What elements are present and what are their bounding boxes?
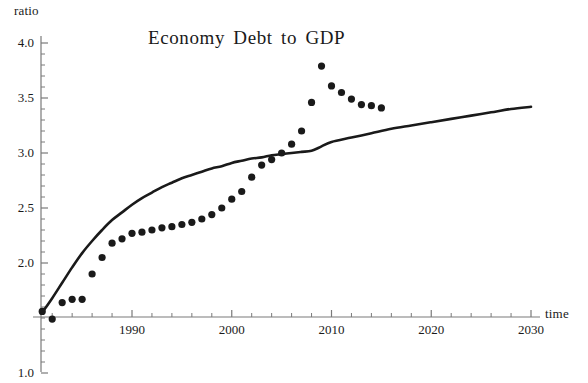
data-point [208,211,215,218]
data-point [338,89,345,96]
data-point [198,215,205,222]
data-point [378,104,385,111]
x-axis-ticks [52,310,531,317]
x-tick-label: 2010 [307,322,357,338]
chart-figure: ratio Economy Debt to GDP time 4.03.53.0… [0,0,588,383]
observed-data-series [39,63,385,323]
data-point [278,149,285,156]
data-point [59,299,66,306]
data-point [69,296,76,303]
data-point [228,196,235,203]
x-tick-label: 2020 [406,322,456,338]
data-point [268,156,275,163]
y-tick-label: 1.0 [0,365,34,381]
data-point [248,174,255,181]
data-point [358,101,365,108]
x-tick-label: 1990 [107,322,157,338]
data-point [288,141,295,148]
plot-area [0,0,588,383]
y-axis-ticks [41,43,48,373]
data-point [238,188,245,195]
data-point [308,99,315,106]
data-point [178,221,185,228]
data-point [328,82,335,89]
data-point [368,102,375,109]
x-tick-label: 2000 [207,322,257,338]
data-point [49,316,56,323]
y-tick-label: 3.0 [0,145,34,161]
data-point [348,96,355,103]
y-tick-label: 2.0 [0,255,34,271]
data-point [298,127,305,134]
y-tick-label: 2.5 [0,200,34,216]
data-point [148,226,155,233]
data-point [158,224,165,231]
data-point [39,308,46,315]
y-tick-label: 4.0 [0,35,34,51]
data-point [318,63,325,70]
data-point [98,254,105,261]
fitted-curve-path [42,107,531,313]
data-point [89,270,96,277]
data-point [218,204,225,211]
data-point [138,229,145,236]
x-tick-label: 2030 [506,322,556,338]
data-point [168,223,175,230]
data-point [108,240,115,247]
data-point [79,296,86,303]
data-point [258,162,265,169]
fitted-curve-series [42,107,531,313]
data-point [188,219,195,226]
y-tick-label: 3.5 [0,90,34,106]
data-point [128,230,135,237]
data-point [118,235,125,242]
